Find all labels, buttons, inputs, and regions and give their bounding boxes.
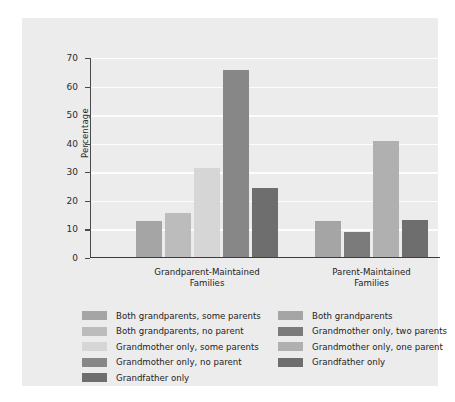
legend-item: Both grandparents, no parent [82,324,277,340]
legend-label: Both grandparents, no parent [116,326,244,336]
legend-swatch [278,358,303,367]
y-axis-tick: 20 [85,201,90,202]
y-axis-tick: 60 [85,87,90,88]
axes: 010203040506070 [90,58,440,258]
legend-swatch [82,327,107,336]
y-axis-tick-label: 0 [72,253,78,263]
gridline [91,115,440,116]
legend-item: Grandmother only, no parent [82,355,277,371]
legend-swatch [278,327,303,336]
y-axis-tick-label: 30 [67,167,78,177]
x-axis-category-label: Parent-Maintained Families [302,267,442,289]
bar [373,141,399,257]
legend-label: Grandmother only, two parents [312,326,447,336]
y-axis-tick-label: 10 [67,224,78,234]
legend-column-left: Both grandparents, some parentsBoth gran… [82,308,277,386]
y-axis-label: Percentage [80,88,90,178]
legend-label: Grandfather only [116,373,189,383]
bar [344,232,370,256]
y-axis-tick-label: 50 [67,110,78,120]
y-axis-line [90,58,91,258]
y-axis-tick-label: 70 [67,53,78,63]
legend-item: Grandmother only, one parent [278,339,455,355]
legend-swatch [82,358,107,367]
y-axis-tick: 10 [85,229,90,230]
figure: Percentage 010203040506070 Grandparent-M… [0,0,455,402]
bar [402,220,428,257]
legend-label: Both grandparents [312,311,393,321]
legend-label: Grandmother only, some parents [116,342,259,352]
legend-column-right: Both grandparentsGrandmother only, two p… [278,308,455,370]
y-axis-tick: 70 [85,58,90,59]
bar [194,168,220,257]
legend-item: Grandfather only [82,370,277,386]
legend-item: Grandmother only, some parents [82,339,277,355]
legend: Both grandparents, some parentsBoth gran… [68,308,455,388]
gridline [91,58,440,59]
chart-panel: Percentage 010203040506070 Grandparent-M… [22,18,438,386]
legend-swatch [82,373,107,382]
legend-item: Both grandparents [278,308,455,324]
legend-item: Grandmother only, two parents [278,324,455,340]
y-axis-tick: 50 [85,115,90,116]
legend-swatch [278,342,303,351]
bar [223,70,249,256]
y-axis-tick-label: 20 [67,196,78,206]
plot-area: Percentage 010203040506070 Grandparent-M… [44,36,455,286]
y-axis-tick: 30 [85,172,90,173]
legend-swatch [82,311,107,320]
x-axis-line [90,257,440,258]
bar [136,221,162,256]
y-axis-tick: 0 [85,258,90,259]
legend-label: Grandfather only [312,357,385,367]
legend-swatch [278,311,303,320]
x-axis-category-label: Grandparent-Maintained Families [137,267,277,289]
legend-item: Both grandparents, some parents [82,308,277,324]
bar [165,213,191,257]
bar [315,221,341,257]
bar [252,188,278,257]
legend-label: Grandmother only, one parent [312,342,443,352]
gridline [91,87,440,88]
y-axis-tick-label: 60 [67,82,78,92]
legend-label: Grandmother only, no parent [116,357,242,367]
legend-swatch [82,342,107,351]
legend-label: Both grandparents, some parents [116,311,261,321]
y-axis-tick: 40 [85,144,90,145]
legend-item: Grandfather only [278,355,455,371]
y-axis-tick-label: 40 [67,139,78,149]
